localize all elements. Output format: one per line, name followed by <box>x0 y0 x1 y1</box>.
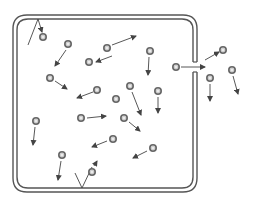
incident-paths <box>28 19 92 188</box>
gas-particle <box>94 87 100 93</box>
incident-path <box>28 19 38 45</box>
gas-particle <box>104 45 110 51</box>
gas-particle <box>59 152 65 158</box>
gas-particle <box>207 75 213 81</box>
velocity-arrow <box>33 127 35 145</box>
container-inner-wall <box>17 19 193 188</box>
gas-particle <box>220 47 226 53</box>
velocity-arrow <box>233 76 238 94</box>
gas-particle <box>155 88 161 94</box>
velocity-arrow <box>55 50 66 66</box>
effusion-diagram <box>0 0 254 206</box>
velocity-arrow <box>96 56 112 62</box>
gas-particle <box>110 136 116 142</box>
velocity-arrow <box>77 92 93 98</box>
gas-particle <box>147 48 153 54</box>
velocity-arrow <box>94 161 97 166</box>
gas-particle <box>78 115 84 121</box>
velocity-arrow <box>132 92 141 115</box>
container <box>13 15 197 192</box>
gas-particle <box>65 41 71 47</box>
gas-particle <box>40 34 46 40</box>
velocity-arrow <box>92 141 107 147</box>
gas-particle <box>127 83 133 89</box>
gas-particle <box>150 145 156 151</box>
velocity-arrow <box>148 57 149 75</box>
velocity-arrow <box>129 122 140 131</box>
velocity-arrow <box>55 81 67 89</box>
velocity-arrow <box>87 116 106 118</box>
gas-particle <box>121 115 127 121</box>
velocity-arrow <box>38 19 42 32</box>
container-outer-wall <box>13 15 197 192</box>
gas-particle <box>113 96 119 102</box>
gas-particle <box>89 169 95 175</box>
gas-particle <box>33 118 39 124</box>
velocity-arrow <box>112 36 136 45</box>
velocity-arrow <box>133 151 147 158</box>
velocity-arrow <box>58 161 61 180</box>
velocity-arrow <box>205 52 219 60</box>
gas-particle <box>229 67 235 73</box>
gas-particle <box>47 75 53 81</box>
incident-path <box>75 173 82 188</box>
gas-particle <box>173 64 179 70</box>
gas-particles <box>33 34 235 175</box>
gas-particle <box>86 59 92 65</box>
